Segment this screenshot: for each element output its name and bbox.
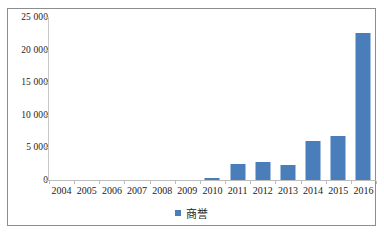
x-tick-mark (225, 181, 226, 184)
bar[interactable] (356, 33, 371, 180)
x-tick-label: 2004 (52, 185, 72, 196)
x-tick-label: 2016 (353, 185, 373, 196)
y-tick-mark (44, 180, 48, 181)
x-tick-label: 2008 (152, 185, 172, 196)
bar-slot (200, 17, 225, 180)
plot-area: 05 00010 00015 00020 00025 000 200420052… (8, 9, 375, 225)
x-tick-mark (200, 181, 201, 184)
x-axis-line (48, 180, 376, 181)
x-tick-label: 2011 (228, 185, 248, 196)
bar-slot (275, 17, 300, 180)
y-tick-mark (44, 147, 48, 148)
bar-slot (74, 17, 99, 180)
bar-slot (150, 17, 175, 180)
bar[interactable] (230, 164, 245, 180)
x-tick-mark (376, 181, 377, 184)
bar-slot (124, 17, 149, 180)
x-tick-mark (99, 181, 100, 184)
bar-slot (301, 17, 326, 180)
x-tick-mark (175, 181, 176, 184)
x-tick-label: 2013 (278, 185, 298, 196)
bar[interactable] (205, 178, 220, 180)
bar-slot (326, 17, 351, 180)
chart-legend: 商誉 (8, 205, 375, 221)
x-tick-mark (74, 181, 75, 184)
x-tick-label: 2005 (77, 185, 97, 196)
x-axis-labels: 2004200520062007200820092010201120122013… (49, 185, 376, 201)
chart-frame: 05 00010 00015 00020 00025 000 200420052… (7, 8, 376, 226)
bar-slot (225, 17, 250, 180)
x-tick-label: 2009 (177, 185, 197, 196)
legend-label: 商誉 (186, 205, 208, 221)
bar-slot (49, 17, 74, 180)
bar-slot (351, 17, 376, 180)
x-tick-mark (150, 181, 151, 184)
y-tick-mark (44, 50, 48, 51)
x-tick-label: 2010 (203, 185, 223, 196)
x-tick-label: 2015 (328, 185, 348, 196)
bar-slot (250, 17, 275, 180)
y-tick-mark (44, 115, 48, 116)
x-tick-mark (301, 181, 302, 184)
bar[interactable] (255, 162, 270, 180)
x-tick-mark (49, 181, 50, 184)
x-tick-mark (351, 181, 352, 184)
x-tick-mark (275, 181, 276, 184)
bar-series-商誉 (49, 17, 376, 180)
x-tick-mark (250, 181, 251, 184)
y-axis-labels: 05 00010 00015 00020 00025 000 (8, 13, 48, 177)
x-tick-label: 2012 (253, 185, 273, 196)
bar[interactable] (331, 136, 346, 180)
bar-slot (175, 17, 200, 180)
y-tick-mark (44, 17, 48, 18)
y-tick-mark (44, 82, 48, 83)
bar[interactable] (280, 165, 295, 180)
x-tick-label: 2007 (127, 185, 147, 196)
bar-slot (99, 17, 124, 180)
x-tick-label: 2014 (303, 185, 323, 196)
bar[interactable] (306, 141, 321, 180)
legend-swatch-icon (175, 210, 181, 216)
x-tick-mark (326, 181, 327, 184)
x-tick-mark (124, 181, 125, 184)
x-tick-label: 2006 (102, 185, 122, 196)
